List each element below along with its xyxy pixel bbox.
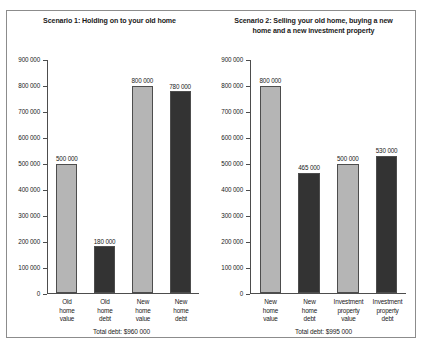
y-axis-tick-label: 300 000 bbox=[221, 212, 243, 219]
y-axis-tick: 100 000 bbox=[246, 268, 250, 269]
category-label-line: debt bbox=[290, 315, 329, 324]
y-axis-tick: 700 000 bbox=[43, 112, 47, 113]
bar[interactable] bbox=[376, 156, 398, 293]
category-label-line: New bbox=[162, 298, 200, 307]
chart-title-line: Scenario 2: Selling your old home, buyin… bbox=[220, 17, 407, 27]
bar-value-label: 780 000 bbox=[169, 83, 191, 90]
y-axis-tick: 900 000 bbox=[246, 60, 250, 61]
category-label-line: value bbox=[329, 315, 368, 324]
bar-slot: 780 000 bbox=[170, 60, 191, 293]
y-axis-tick: 800 000 bbox=[43, 86, 47, 87]
chart-title-scenario-2: Scenario 2: Selling your old home, buyin… bbox=[220, 17, 407, 36]
x-axis-category-labels-scenario-2: NewhomevalueNewhomedebtInvestmentpropert… bbox=[251, 298, 407, 332]
y-axis-tick-label: 0 bbox=[240, 290, 243, 297]
bar[interactable] bbox=[337, 164, 359, 293]
bar-value-label: 500 000 bbox=[56, 155, 78, 162]
x-axis-category-label: Investmentpropertydebt bbox=[368, 298, 407, 324]
y-axis-tick-label: 600 000 bbox=[221, 134, 243, 141]
bar-group-scenario-2: 800 000465 000500 000530 000 bbox=[251, 60, 406, 293]
x-axis-category-label: Oldhomedebt bbox=[86, 298, 124, 324]
y-axis-tick-label: 0 bbox=[37, 290, 40, 297]
bar-slot: 465 000 bbox=[298, 60, 320, 293]
category-label-line: home bbox=[124, 307, 162, 316]
x-axis-category-label: Newhomevalue bbox=[251, 298, 290, 324]
y-axis-tick-label: 400 000 bbox=[18, 186, 40, 193]
category-label-line: New bbox=[251, 298, 290, 307]
y-axis-tick: 500 000 bbox=[43, 164, 47, 165]
category-label-line: value bbox=[251, 315, 290, 324]
x-axis-category-label: Oldhomevalue bbox=[48, 298, 86, 324]
y-axis-tick: 200 000 bbox=[246, 242, 250, 243]
bar[interactable] bbox=[298, 173, 320, 293]
y-axis-tick: 300 000 bbox=[246, 216, 250, 217]
total-debt-annotation-scenario-2: Total debt: $995 000 bbox=[236, 328, 411, 335]
y-axis-tick: 500 000 bbox=[246, 164, 250, 165]
chart-title-line: home and a new investment property bbox=[220, 27, 407, 37]
plot-area-scenario-2: 900 000800 000700 000600 000500 000400 0… bbox=[250, 60, 406, 294]
y-axis-tick: 0 bbox=[246, 294, 250, 295]
chart-panel-scenario-1: Scenario 1: Holding on to your old home … bbox=[7, 11, 212, 337]
y-axis-tick: 100 000 bbox=[43, 268, 47, 269]
y-axis-tick-label: 700 000 bbox=[18, 108, 40, 115]
bar-value-label: 530 000 bbox=[376, 147, 398, 154]
x-axis-line bbox=[250, 293, 406, 294]
category-label-line: home bbox=[48, 307, 86, 316]
bar[interactable] bbox=[132, 86, 153, 293]
y-axis-tick: 300 000 bbox=[43, 216, 47, 217]
chart-title-scenario-1: Scenario 1: Holding on to your old home bbox=[15, 17, 204, 27]
y-axis-tick: 0 bbox=[43, 294, 47, 295]
bar-slot: 500 000 bbox=[337, 60, 359, 293]
y-axis-tick-label: 100 000 bbox=[221, 264, 243, 271]
y-axis-tick: 600 000 bbox=[43, 138, 47, 139]
plot-area-scenario-1: 900 000800 000700 000600 000500 000400 0… bbox=[47, 60, 199, 294]
category-label-line: home bbox=[290, 307, 329, 316]
category-label-line: property bbox=[368, 307, 407, 316]
y-axis-tick: 800 000 bbox=[246, 86, 250, 87]
category-label-line: debt bbox=[368, 315, 407, 324]
bar-value-label: 180 000 bbox=[94, 238, 116, 245]
y-axis-tick-label: 200 000 bbox=[221, 238, 243, 245]
bar-slot: 180 000 bbox=[94, 60, 115, 293]
y-axis-tick-label: 800 000 bbox=[221, 82, 243, 89]
category-label-line: home bbox=[86, 307, 124, 316]
bar[interactable] bbox=[260, 86, 282, 293]
y-axis-tick: 900 000 bbox=[43, 60, 47, 61]
y-axis-tick-label: 200 000 bbox=[18, 238, 40, 245]
bar-slot: 800 000 bbox=[260, 60, 282, 293]
category-label-line: Old bbox=[48, 298, 86, 307]
category-label-line: value bbox=[48, 315, 86, 324]
category-label-line: value bbox=[124, 315, 162, 324]
bar-group-scenario-1: 500 000180 000800 000780 000 bbox=[48, 60, 199, 293]
y-axis-tick-label: 500 000 bbox=[18, 160, 40, 167]
bar[interactable] bbox=[170, 91, 191, 293]
category-label-line: property bbox=[329, 307, 368, 316]
y-axis-tick-label: 500 000 bbox=[221, 160, 243, 167]
bar-value-label: 800 000 bbox=[132, 77, 154, 84]
category-label-line: debt bbox=[162, 315, 200, 324]
category-label-line: Investment bbox=[329, 298, 368, 307]
x-axis-category-label: Newhomedebt bbox=[290, 298, 329, 324]
y-axis-tick-label: 400 000 bbox=[221, 186, 243, 193]
total-debt-annotation-scenario-1: Total debt: $960 000 bbox=[37, 328, 206, 335]
bar-slot: 800 000 bbox=[132, 60, 153, 293]
category-label-line: Old bbox=[86, 298, 124, 307]
bar-slot: 500 000 bbox=[56, 60, 77, 293]
chart-title-line: Scenario 1: Holding on to your old home bbox=[15, 17, 204, 27]
bar-value-label: 800 000 bbox=[260, 77, 282, 84]
bar[interactable] bbox=[94, 246, 115, 293]
bar-slot: 530 000 bbox=[376, 60, 398, 293]
bar-value-label: 500 000 bbox=[337, 155, 359, 162]
y-axis-tick-label: 900 000 bbox=[221, 56, 243, 63]
bar[interactable] bbox=[56, 164, 77, 293]
y-axis-tick: 400 000 bbox=[246, 190, 250, 191]
bar-value-label: 465 000 bbox=[298, 164, 320, 171]
y-axis-tick-label: 900 000 bbox=[18, 56, 40, 63]
y-axis-tick-label: 600 000 bbox=[18, 134, 40, 141]
y-axis-tick: 200 000 bbox=[43, 242, 47, 243]
y-axis-tick-label: 800 000 bbox=[18, 82, 40, 89]
category-label-line: home bbox=[251, 307, 290, 316]
category-label-line: debt bbox=[86, 315, 124, 324]
y-axis-tick: 400 000 bbox=[43, 190, 47, 191]
x-axis-category-labels-scenario-1: OldhomevalueOldhomedebtNewhomevalueNewho… bbox=[48, 298, 200, 332]
y-axis-tick-label: 300 000 bbox=[18, 212, 40, 219]
